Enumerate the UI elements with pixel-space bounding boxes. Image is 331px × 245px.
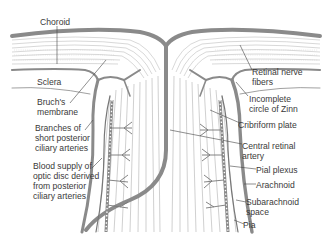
- label-blood-supply-optic-disc: Blood supply of optic disc derived from …: [33, 161, 99, 201]
- label-cribriform-plate: Cribriform plate: [238, 120, 297, 130]
- label-incomplete-circle-zinn: Incomplete circle of Zinn: [249, 94, 298, 114]
- left-sheath: [82, 80, 98, 232]
- label-pia: Pia: [243, 220, 255, 230]
- label-arachnoid: Arachnoid: [256, 180, 295, 190]
- label-branches-short-posterior: Branches of short posterior ciliary arte…: [35, 123, 90, 153]
- label-pial-plexus: Pial plexus: [256, 165, 298, 175]
- label-sclera: Sclera: [37, 77, 61, 87]
- label-bruchs-membrane: Bruch's membrane: [37, 97, 78, 117]
- label-subarachnoid-space: Subarachnoid space: [246, 197, 299, 217]
- label-choroid: Choroid: [40, 17, 70, 27]
- label-central-retinal-artery: Central retinal artery: [242, 141, 296, 161]
- retinal-surface-vessel: [12, 30, 320, 46]
- label-retinal-nerve-fibers: Retinal nerve fibers: [252, 67, 303, 87]
